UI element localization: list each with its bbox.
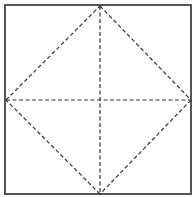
dashed-fold-lines (6, 6, 191, 194)
diamond-edge-right-bottom (100, 100, 191, 194)
diamond-edge-top-right (100, 6, 191, 100)
fold-diagram (0, 0, 193, 197)
diamond-edge-bottom-left (6, 100, 100, 194)
diamond-edge-left-top (6, 6, 100, 100)
